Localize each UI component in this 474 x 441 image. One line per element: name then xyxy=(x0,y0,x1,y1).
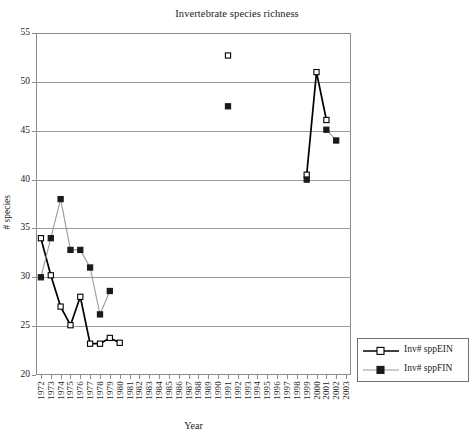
y-gridline xyxy=(36,131,351,132)
x-axis-label: Year xyxy=(36,420,351,431)
y-tick-label: 35 xyxy=(0,222,30,232)
x-tick-mark xyxy=(326,375,327,379)
y-tick-label: 55 xyxy=(0,27,30,37)
x-tick-label: 1992 xyxy=(233,381,243,400)
x-tick-mark xyxy=(159,375,160,379)
chart-figure: Invertebrate species richness # species … xyxy=(0,0,474,441)
legend-label: Inv# sppFIN xyxy=(404,363,452,373)
x-tick-label: 1973 xyxy=(46,381,56,400)
x-tick-label: 1989 xyxy=(203,381,213,400)
y-gridline xyxy=(36,228,351,229)
y-tick-label: 25 xyxy=(0,320,30,330)
x-tick-mark xyxy=(277,375,278,379)
x-tick-mark xyxy=(100,375,101,379)
x-tick-label: 1985 xyxy=(164,381,174,400)
x-tick-mark xyxy=(248,375,249,379)
x-tick-label: 1984 xyxy=(154,381,164,400)
x-tick-mark xyxy=(110,375,111,379)
x-tick-mark xyxy=(189,375,190,379)
x-tick-mark xyxy=(257,375,258,379)
x-tick-label: 1983 xyxy=(144,381,154,400)
y-tick-label: 40 xyxy=(0,174,30,184)
x-tick-label: 1990 xyxy=(213,381,223,400)
x-tick-label: 1980 xyxy=(115,381,125,400)
y-tick-label: 30 xyxy=(0,271,30,281)
x-tick-label: 1986 xyxy=(174,381,184,400)
y-tick-mark xyxy=(32,326,36,327)
x-tick-label: 1976 xyxy=(75,381,85,400)
x-tick-mark xyxy=(70,375,71,379)
x-tick-label: 1995 xyxy=(262,381,272,400)
y-tick-mark xyxy=(32,180,36,181)
y-tick-mark xyxy=(32,228,36,229)
x-tick-label: 1982 xyxy=(134,381,144,400)
x-tick-label: 1999 xyxy=(302,381,312,400)
y-tick-mark xyxy=(32,33,36,34)
x-tick-label: 1996 xyxy=(272,381,282,400)
y-tick-mark xyxy=(32,131,36,132)
x-tick-label: 1991 xyxy=(223,381,233,400)
x-tick-label: 1988 xyxy=(193,381,203,400)
x-tick-mark xyxy=(218,375,219,379)
x-tick-mark xyxy=(317,375,318,379)
x-tick-mark xyxy=(149,375,150,379)
x-tick-mark xyxy=(267,375,268,379)
plot-area xyxy=(36,33,351,375)
x-tick-label: 1998 xyxy=(292,381,302,400)
y-tick-mark xyxy=(32,277,36,278)
y-tick-mark xyxy=(32,375,36,376)
x-tick-label: 2002 xyxy=(331,381,341,400)
x-tick-mark xyxy=(198,375,199,379)
x-tick-mark xyxy=(61,375,62,379)
legend-entry-1[interactable]: Inv# sppEIN xyxy=(358,342,470,360)
y-gridline xyxy=(36,180,351,181)
x-tick-mark xyxy=(120,375,121,379)
x-tick-label: 1979 xyxy=(105,381,115,400)
x-tick-mark xyxy=(228,375,229,379)
y-tick-label: 20 xyxy=(0,369,30,379)
y-gridline xyxy=(36,277,351,278)
x-tick-mark xyxy=(307,375,308,379)
x-tick-mark xyxy=(287,375,288,379)
legend-label: Inv# sppEIN xyxy=(404,344,453,354)
y-tick-label: 50 xyxy=(0,76,30,86)
x-tick-label: 1977 xyxy=(85,381,95,400)
legend-marker-icon xyxy=(362,342,400,360)
x-tick-mark xyxy=(51,375,52,379)
x-tick-mark xyxy=(80,375,81,379)
x-tick-mark xyxy=(297,375,298,379)
x-tick-label: 1997 xyxy=(282,381,292,400)
x-tick-label: 1978 xyxy=(95,381,105,400)
x-tick-label: 1972 xyxy=(36,381,46,400)
x-tick-mark xyxy=(90,375,91,379)
chart-legend: Inv# sppEINInv# sppFIN xyxy=(357,338,469,382)
x-tick-mark xyxy=(336,375,337,379)
x-tick-label: 2003 xyxy=(341,381,351,400)
x-tick-mark xyxy=(346,375,347,379)
x-tick-mark xyxy=(208,375,209,379)
x-tick-mark xyxy=(130,375,131,379)
y-gridline xyxy=(36,82,351,83)
y-gridline xyxy=(36,326,351,327)
x-tick-mark xyxy=(238,375,239,379)
legend-entry-2[interactable]: Inv# sppFIN xyxy=(358,361,470,379)
x-tick-mark xyxy=(139,375,140,379)
chart-title: Invertebrate species richness xyxy=(0,8,474,19)
x-tick-mark xyxy=(169,375,170,379)
y-tick-mark xyxy=(32,82,36,83)
x-tick-label: 1994 xyxy=(252,381,262,400)
x-tick-label: 1975 xyxy=(65,381,75,400)
x-tick-mark xyxy=(179,375,180,379)
y-tick-label: 45 xyxy=(0,125,30,135)
x-tick-label: 2001 xyxy=(321,381,331,400)
legend-marker-icon xyxy=(362,361,400,379)
x-tick-mark xyxy=(41,375,42,379)
